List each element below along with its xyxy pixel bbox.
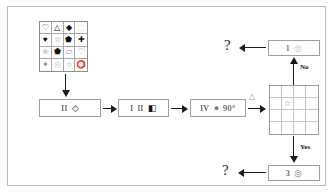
- answer-cell[interactable]: [306, 110, 318, 122]
- arrow-shaft: [244, 172, 266, 173]
- answer-cell[interactable]: [306, 122, 318, 134]
- output-box-top[interactable]: 1 ◎: [268, 40, 320, 56]
- circle-target-icon: ◎: [294, 169, 302, 178]
- arrow-head-icon: [290, 156, 298, 163]
- answer-cell[interactable]: [282, 110, 294, 122]
- arrow-shaft: [293, 136, 294, 158]
- answer-cell[interactable]: [282, 86, 294, 98]
- source-cell: ❀: [40, 47, 52, 59]
- step-box-iv[interactable]: IV ● 90°: [190, 99, 246, 117]
- source-cell: ☆: [52, 34, 64, 46]
- arrow-down-yes-branch: [289, 136, 298, 164]
- diagram-canvas: ♡ △ ◆ ⬚ ♥ ☆ ⬟ ✚ ❀ ⬟ ▱ ♡ ✦ ◎ ○ ⭕ II ◇: [0, 0, 333, 192]
- source-cell: ▱: [64, 47, 76, 59]
- step-box-iii[interactable]: I II ◧: [118, 99, 169, 117]
- answer-cell[interactable]: [270, 86, 282, 98]
- arrow-head-icon: [238, 169, 244, 177]
- answer-cell[interactable]: [294, 86, 306, 98]
- diamond-icon: ◇: [72, 104, 79, 113]
- step-numeral-secondary: II: [137, 104, 143, 113]
- arrow-shaft: [293, 63, 294, 85]
- answer-cell[interactable]: [306, 98, 318, 110]
- answer-grid[interactable]: ☆: [269, 85, 319, 135]
- branch-label-yes: Yes: [300, 144, 310, 151]
- source-cell: △: [52, 22, 64, 34]
- circle-target-icon: ◎: [294, 44, 302, 53]
- arrow-right-2: [171, 104, 189, 113]
- triangle-branch-icon: △: [249, 93, 255, 101]
- rotation-angle: 90°: [223, 104, 236, 113]
- source-cell: ♡: [75, 47, 87, 59]
- source-symbol-grid: ♡ △ ◆ ⬚ ♥ ☆ ⬟ ✚ ❀ ⬟ ▱ ♡ ✦ ◎ ○ ⭕: [39, 21, 88, 72]
- output-box-bottom[interactable]: 3 ◎: [268, 165, 320, 181]
- source-cell: ✦: [40, 59, 52, 71]
- answer-cell-star[interactable]: ☆: [282, 98, 294, 110]
- filled-circle-icon: ●: [214, 104, 219, 113]
- source-cell: ◎: [52, 59, 64, 71]
- output-count: 1: [286, 44, 291, 53]
- answer-cell[interactable]: [270, 122, 282, 134]
- source-cell: ◆: [64, 22, 76, 34]
- arrow-head-icon: [62, 90, 70, 97]
- arrow-head-icon: [182, 105, 188, 113]
- answer-cell[interactable]: [282, 122, 294, 134]
- source-cell: ♡: [40, 22, 52, 34]
- arrow-right-3: [248, 104, 268, 113]
- arrow-down-source: [62, 74, 71, 97]
- source-cell: ♥: [40, 34, 52, 46]
- unknown-bottom: ?: [222, 163, 229, 178]
- source-cell: ⬚: [75, 22, 87, 34]
- output-count: 3: [286, 169, 291, 178]
- source-cell: ⬟: [52, 47, 64, 59]
- arrow-head-icon: [260, 105, 266, 113]
- step-numeral: II: [61, 104, 67, 113]
- step-box-ii[interactable]: II ◇: [39, 99, 101, 117]
- answer-cell[interactable]: [270, 98, 282, 110]
- arrow-right-1: [103, 104, 117, 113]
- arrow-left-top: [239, 43, 267, 52]
- arrow-left-bottom: [238, 168, 267, 177]
- source-cell: ⬟: [64, 34, 76, 46]
- source-cell: ○: [64, 59, 76, 71]
- half-filled-square-icon: ◧: [148, 104, 157, 113]
- arrow-head-icon: [290, 57, 298, 64]
- arrow-up-no-branch: [289, 57, 298, 85]
- unknown-top: ?: [224, 38, 231, 53]
- answer-cell[interactable]: [306, 86, 318, 98]
- arrow-head-icon: [239, 44, 245, 52]
- answer-cell[interactable]: [294, 110, 306, 122]
- answer-cell[interactable]: [294, 98, 306, 110]
- source-cell: ✚: [75, 34, 87, 46]
- arrow-shaft: [245, 47, 266, 48]
- branch-label-no: No: [300, 64, 309, 71]
- arrow-head-icon: [111, 105, 117, 113]
- step-numeral: IV: [200, 104, 209, 113]
- source-cell: ⭕: [75, 59, 87, 71]
- answer-cell[interactable]: [294, 122, 306, 134]
- step-numeral: I: [130, 104, 133, 113]
- diagram-frame: ♡ △ ◆ ⬚ ♥ ☆ ⬟ ✚ ❀ ⬟ ▱ ♡ ✦ ◎ ○ ⭕ II ◇: [7, 6, 326, 186]
- answer-cell[interactable]: [270, 110, 282, 122]
